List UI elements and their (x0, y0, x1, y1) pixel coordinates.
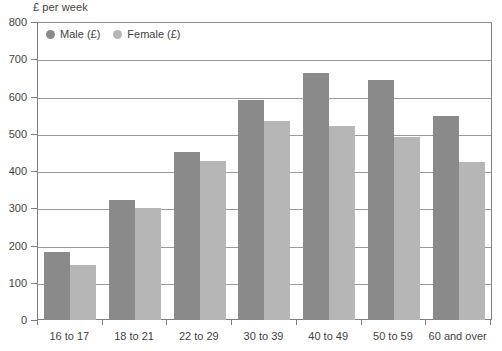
y-axis-tick-label: 0 (21, 314, 27, 326)
legend-item[interactable]: Male (£) (46, 28, 100, 40)
bars-layer (38, 22, 491, 320)
x-axis-tick-mark (425, 320, 426, 325)
bar-male[interactable] (433, 116, 459, 320)
bar-male[interactable] (238, 100, 264, 320)
legend-label: Male (£) (60, 28, 100, 40)
x-axis-tick-mark (231, 320, 232, 325)
x-axis-tick-label: 16 to 17 (49, 330, 89, 342)
y-axis-tick-label: 300 (9, 202, 27, 214)
y-axis-tick-label: 100 (9, 277, 27, 289)
bar-female[interactable] (264, 121, 290, 320)
x-axis-tick-mark (102, 320, 103, 325)
bar-female[interactable] (135, 208, 161, 320)
y-axis-tick-label: 200 (9, 240, 27, 252)
bar-chart: £ per week 0100200300400500600700800 Mal… (0, 0, 502, 351)
x-axis-tick-label: 40 to 49 (308, 330, 348, 342)
bar-group (232, 22, 297, 320)
x-axis-tick-mark (37, 320, 38, 325)
bar-group (362, 22, 427, 320)
x-axis-tick-mark (166, 320, 167, 325)
legend: Male (£)Female (£) (46, 28, 181, 40)
bar-female[interactable] (394, 137, 420, 320)
x-axis: 16 to 1718 to 2122 to 2930 to 3940 to 49… (37, 320, 492, 351)
legend-item[interactable]: Female (£) (113, 28, 180, 40)
x-axis-tick-label: 60 and over (429, 330, 487, 342)
x-axis-tick-mark (296, 320, 297, 325)
y-axis-tick-label: 600 (9, 91, 27, 103)
x-axis-tick-label: 22 to 29 (179, 330, 219, 342)
x-axis-tick-label: 30 to 39 (244, 330, 284, 342)
bar-group (426, 22, 491, 320)
bar-female[interactable] (329, 126, 355, 320)
x-axis-tick-label: 18 to 21 (114, 330, 154, 342)
bar-group (297, 22, 362, 320)
bar-male[interactable] (109, 200, 135, 320)
bar-group (103, 22, 168, 320)
bar-group (38, 22, 103, 320)
bar-female[interactable] (459, 162, 485, 320)
legend-swatch-circle-icon (113, 30, 122, 39)
legend-label: Female (£) (127, 28, 180, 40)
bar-male[interactable] (303, 73, 329, 320)
bar-female[interactable] (70, 265, 96, 320)
y-axis-tick-label: 800 (9, 16, 27, 28)
x-axis-tick-label: 50 to 59 (373, 330, 413, 342)
bar-male[interactable] (44, 252, 70, 320)
bar-male[interactable] (368, 80, 394, 320)
x-axis-tick-mark (490, 320, 491, 325)
y-axis: 0100200300400500600700800 (0, 0, 37, 351)
bar-male[interactable] (174, 152, 200, 320)
legend-swatch-circle-icon (46, 30, 55, 39)
y-axis-tick-label: 500 (9, 128, 27, 140)
y-axis-tick-label: 700 (9, 53, 27, 65)
x-axis-tick-mark (361, 320, 362, 325)
y-axis-unit-caption: £ per week (33, 1, 88, 13)
bar-female[interactable] (200, 161, 226, 320)
y-axis-tick-label: 400 (9, 165, 27, 177)
bar-group (167, 22, 232, 320)
